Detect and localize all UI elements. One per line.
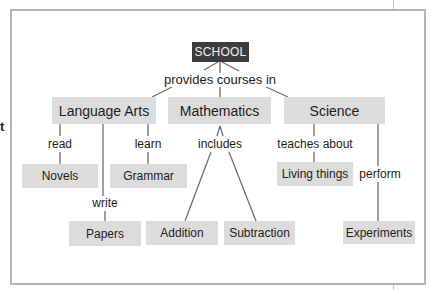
node-grammar: Grammar — [110, 164, 187, 188]
node-science: Science — [284, 97, 385, 124]
link-math-includes-b — [220, 126, 223, 136]
link-school-right — [222, 62, 239, 71]
link-includes-subtraction — [229, 152, 256, 221]
link-math-includes-a — [217, 126, 220, 136]
label-teaches-about: teaches about — [277, 137, 352, 151]
node-language-arts: Language Arts — [52, 97, 156, 124]
node-experiments: Experiments — [343, 221, 415, 244]
label-write: write — [92, 196, 117, 210]
node-living-things: Living things — [277, 162, 353, 186]
link-to-science — [264, 86, 288, 97]
node-mathematics: Mathematics — [168, 97, 271, 124]
node-novels: Novels — [22, 164, 98, 188]
node-papers: Papers — [69, 221, 141, 246]
node-subtraction: Subtraction — [224, 221, 295, 245]
label-learn: learn — [135, 137, 162, 151]
node-addition: Addition — [146, 221, 218, 245]
label-provides-courses-in: provides courses in — [164, 73, 276, 87]
link-to-language-arts — [152, 87, 172, 97]
link-school-left — [204, 62, 218, 70]
label-includes: includes — [198, 137, 242, 151]
node-school: SCHOOL — [192, 42, 249, 62]
link-includes-addition — [185, 152, 211, 221]
label-read: read — [48, 137, 72, 151]
label-perform: perform — [359, 167, 400, 181]
